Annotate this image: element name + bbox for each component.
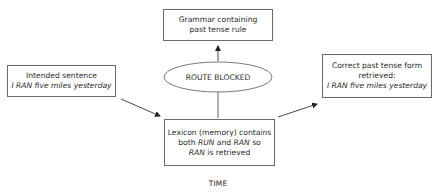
correct-line3: I RAN five miles yesterday [327,81,427,91]
time-axis-label: TIME [190,179,246,188]
lexicon-line2: both RUN and RAN so [178,138,261,148]
lexicon-line2-a: both [178,138,198,147]
lexicon-line2-e: so [250,138,261,147]
grammar-line1: Grammar containing [179,15,258,25]
route-blocked-label: ROUTE BLOCKED [164,62,272,92]
intended-sentence-node: Intended sentence I RAN five miles yeste… [7,65,116,97]
lexicon-line2-c: and [214,138,233,147]
lexicon-node: Lexicon (memory) contains both RUN and R… [164,119,275,166]
lexicon-line3-b: is retrieved [205,148,250,157]
lexicon-ran-word: RAN [234,138,250,147]
intended-line1: Intended sentence [26,71,97,81]
intended-line2: I RAN five miles yesterday [11,81,111,91]
lexicon-line3: RAN is retrieved [189,148,251,158]
grammar-node: Grammar containing past tense rule [163,9,273,41]
lexicon-to-correct-arrow [278,104,317,117]
grammar-line2: past tense rule [189,25,246,35]
intended-to-lexicon-arrow [121,99,160,116]
correct-line2: retrieved: [358,71,395,81]
correct-line1: Correct past tense form [332,61,422,71]
lexicon-run-word: RUN [198,138,215,147]
lexicon-ran-word-2: RAN [189,148,205,157]
lexicon-line1: Lexicon (memory) contains [168,128,272,138]
correct-form-node: Correct past tense form retrieved: I RAN… [322,54,432,98]
